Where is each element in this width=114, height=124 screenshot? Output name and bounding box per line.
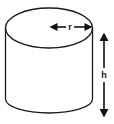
cylinder-diagram: r h xyxy=(0,0,114,124)
cylinder-top-ellipse xyxy=(6,8,93,48)
height-label: h xyxy=(101,70,107,80)
radius-label: r xyxy=(68,22,72,32)
cylinder-figure: r h xyxy=(0,0,114,124)
